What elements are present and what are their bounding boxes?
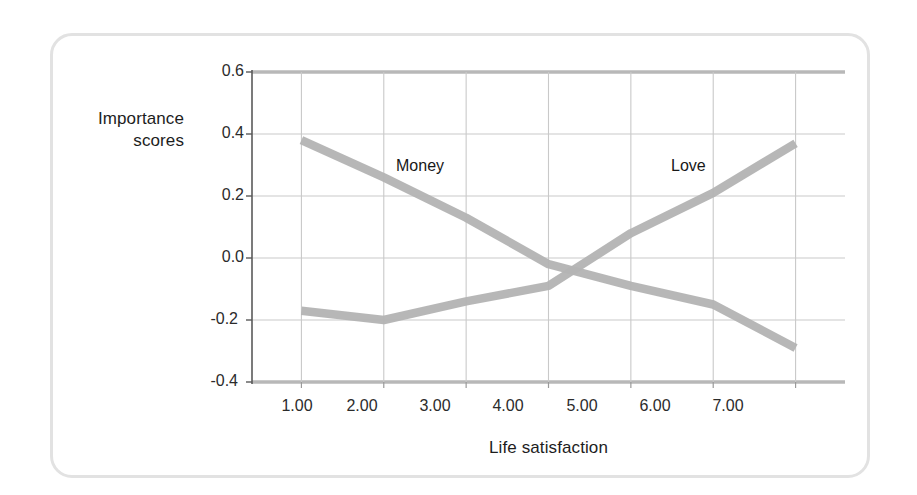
grid-layer — [252, 72, 845, 382]
chart-root: Importance scores Life satisfaction 0.6 … — [0, 0, 917, 495]
plot-area — [0, 0, 917, 495]
